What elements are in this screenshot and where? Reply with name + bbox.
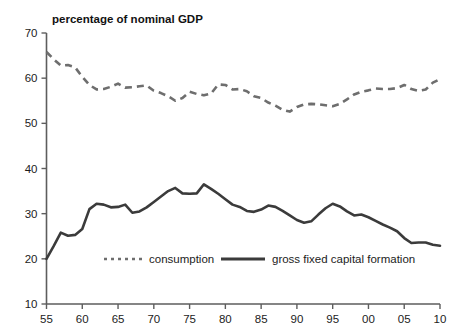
legend-label-consumption: consumption: [149, 253, 214, 265]
y-tick-label: 50: [25, 117, 38, 129]
x-tick-label: 85: [255, 313, 268, 325]
x-tick-label: 05: [398, 313, 411, 325]
chart-title: percentage of nominal GDP: [52, 13, 203, 25]
y-axis: 10203040506070: [25, 27, 47, 310]
y-tick-label: 20: [25, 253, 38, 265]
x-tick-label: 70: [147, 313, 160, 325]
chart-figure: percentage of nominal GDP 10203040506070…: [0, 0, 457, 333]
x-tick-label: 95: [326, 313, 339, 325]
y-tick-label: 30: [25, 208, 38, 220]
chart-legend: consumptiongross fixed capital formation: [104, 253, 415, 265]
x-tick-label: 90: [291, 313, 304, 325]
legend-label-gross-fixed-capital-formation: gross fixed capital formation: [272, 253, 415, 265]
x-tick-label: 10: [434, 313, 447, 325]
y-tick-label: 40: [25, 163, 38, 175]
x-tick-label: 80: [219, 313, 232, 325]
y-tick-label: 10: [25, 298, 38, 310]
y-tick-label: 60: [25, 72, 38, 84]
x-tick-label: 60: [76, 313, 89, 325]
x-tick-label: 00: [362, 313, 375, 325]
line-chart: percentage of nominal GDP 10203040506070…: [0, 0, 457, 333]
series-line-gross-fixed-capital-formation: [47, 184, 441, 259]
x-tick-label: 55: [40, 313, 53, 325]
x-tick-label: 65: [112, 313, 125, 325]
series-group: [47, 52, 441, 259]
y-tick-label: 70: [25, 27, 38, 39]
x-axis: 556065707580859095000510: [40, 304, 446, 325]
series-line-consumption: [47, 52, 441, 112]
x-tick-label: 75: [183, 313, 196, 325]
chart-title-group: percentage of nominal GDP: [52, 13, 203, 25]
